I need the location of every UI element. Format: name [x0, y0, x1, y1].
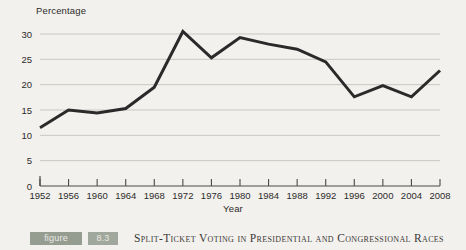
figure-word-badge: figure [30, 232, 82, 245]
figure-number-badge: 8.3 [88, 232, 118, 245]
x-tick-label: 1952 [29, 190, 50, 201]
x-tick-label: 2004 [401, 190, 422, 201]
y-tick-label: 10 [21, 130, 32, 141]
data-series-line [40, 31, 440, 127]
chart-plot-svg: 0510152025301952195619601964196819721976… [0, 0, 466, 222]
x-tick-label: 1980 [229, 190, 250, 201]
x-axis-title: Year [0, 203, 466, 214]
x-tick-label: 1992 [315, 190, 336, 201]
x-tick-label: 1984 [258, 190, 279, 201]
x-tick-label: 1976 [201, 190, 222, 201]
x-tick-label: 1996 [344, 190, 365, 201]
x-tick-label: 2008 [429, 190, 450, 201]
x-tick-label: 1956 [58, 190, 79, 201]
y-tick-label: 5 [27, 155, 32, 166]
x-tick-label: 1972 [172, 190, 193, 201]
y-tick-label: 15 [21, 105, 32, 116]
x-tick-label: 1964 [115, 190, 136, 201]
x-tick-label: 2000 [372, 190, 393, 201]
figure-caption-text: Split-Ticket Voting in Presidential and … [134, 232, 444, 244]
y-tick-label: 20 [21, 79, 32, 90]
line-chart: Percentage 05101520253019521956196019641… [0, 0, 466, 222]
y-tick-label: 25 [21, 54, 32, 65]
x-tick-label: 1988 [287, 190, 308, 201]
figure-container: Percentage 05101520253019521956196019641… [0, 0, 466, 250]
figure-caption-row: figure 8.3 Split-Ticket Voting in Presid… [0, 226, 466, 250]
y-tick-label: 30 [21, 29, 32, 40]
x-tick-label: 1960 [87, 190, 108, 201]
x-tick-label: 1968 [144, 190, 165, 201]
